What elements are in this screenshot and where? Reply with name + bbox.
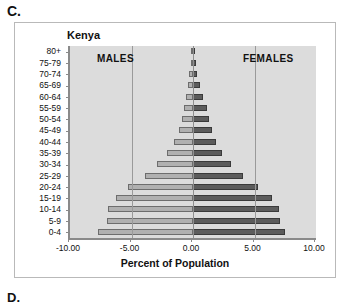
y-axis-label: 55-59 xyxy=(39,103,61,114)
y-axis-label: 50-54 xyxy=(39,114,61,125)
bar-male-35-39 xyxy=(167,150,193,156)
y-axis-label: 80+ xyxy=(47,46,61,57)
zero-line xyxy=(193,46,194,238)
y-axis-tick xyxy=(66,131,69,132)
bar-female-45-49 xyxy=(193,127,212,133)
x-axis-tick xyxy=(191,238,192,242)
x-axis-tick-label: 0.00 xyxy=(183,243,200,253)
bar-female-5-9 xyxy=(193,218,280,224)
y-axis-tick xyxy=(66,119,69,120)
bar-male-50-54 xyxy=(182,116,193,122)
bar-female-25-29 xyxy=(193,173,243,179)
y-axis-tick xyxy=(66,232,69,233)
y-axis-tick xyxy=(66,153,69,154)
gridline--10 xyxy=(70,46,71,238)
bar-male-30-34 xyxy=(157,161,193,167)
gridline--5 xyxy=(132,46,133,238)
bar-male-10-14 xyxy=(108,206,193,212)
x-axis-tick xyxy=(314,238,315,242)
y-axis-label: 5-9 xyxy=(49,216,61,227)
bar-male-15-19 xyxy=(116,195,193,201)
y-axis-tick xyxy=(66,108,69,109)
plot-area xyxy=(68,46,316,240)
x-axis-tick xyxy=(253,238,254,242)
bar-female-20-24 xyxy=(193,184,258,190)
y-axis-tick xyxy=(66,97,69,98)
y-axis-label: 45-49 xyxy=(39,125,61,136)
males-label: MALES xyxy=(97,53,134,64)
bar-female-0-4 xyxy=(193,229,285,235)
y-axis-label: 65-69 xyxy=(39,80,61,91)
x-axis-tick-label: -10.00 xyxy=(56,243,80,253)
y-axis-label: 25-29 xyxy=(39,171,61,182)
bar-male-40-44 xyxy=(174,139,193,145)
bar-male-60-64 xyxy=(186,94,193,100)
y-axis-label: 60-64 xyxy=(39,92,61,103)
plot-inner xyxy=(70,46,316,238)
bar-male-25-29 xyxy=(145,173,193,179)
females-label: FEMALES xyxy=(243,53,294,64)
bar-female-55-59 xyxy=(193,105,207,111)
y-axis-label: 40-44 xyxy=(39,137,61,148)
bar-female-60-64 xyxy=(193,94,203,100)
y-axis-label: 15-19 xyxy=(39,193,61,204)
panel-letter: C. xyxy=(7,3,21,19)
bar-male-45-49 xyxy=(179,127,193,133)
bar-female-15-19 xyxy=(193,195,272,201)
gridline-5 xyxy=(255,46,256,238)
y-axis-tick xyxy=(66,86,69,87)
y-axis-label: 35-39 xyxy=(39,148,61,159)
next-panel-letter: D. xyxy=(7,290,20,303)
y-axis-label: 20-24 xyxy=(39,182,61,193)
x-axis-tick-label: -5.00 xyxy=(120,243,139,253)
y-axis-label: 10-14 xyxy=(39,204,61,215)
y-axis-tick xyxy=(66,52,69,53)
bar-male-0-4 xyxy=(98,229,193,235)
y-axis-label: 70-74 xyxy=(39,69,61,80)
y-axis-tick xyxy=(66,210,69,211)
x-axis-tick-label: 5.00 xyxy=(244,243,261,253)
x-axis-tick xyxy=(68,238,69,242)
chart-title: Kenya xyxy=(67,29,100,41)
y-axis-tick xyxy=(66,74,69,75)
y-axis-tick xyxy=(66,165,69,166)
bar-female-50-54 xyxy=(193,116,209,122)
bar-female-65-69 xyxy=(193,82,200,88)
y-axis-tick xyxy=(66,198,69,199)
x-axis-tick xyxy=(130,238,131,242)
bar-male-20-24 xyxy=(128,184,193,190)
x-axis-tick-label: 10.00 xyxy=(303,243,324,253)
y-axis-label: 0-4 xyxy=(49,227,61,238)
bar-male-5-9 xyxy=(107,218,193,224)
bar-female-30-34 xyxy=(193,161,231,167)
y-axis-label: 75-79 xyxy=(39,58,61,69)
y-axis-label: 30-34 xyxy=(39,159,61,170)
bar-female-35-39 xyxy=(193,150,222,156)
figure-panel: C. Kenya 80+75-7970-7465-6960-6455-5950-… xyxy=(0,0,347,303)
y-axis-tick xyxy=(66,187,69,188)
bar-female-40-44 xyxy=(193,139,216,145)
chart-card: Kenya 80+75-7970-7465-6960-6455-5950-544… xyxy=(14,22,336,278)
x-axis-title: Percent of Population xyxy=(15,257,335,269)
x-axis-labels: -10.00-5.000.005.0010.00 xyxy=(15,243,337,257)
bar-male-55-59 xyxy=(184,105,193,111)
y-axis-tick xyxy=(66,176,69,177)
y-axis-tick xyxy=(66,221,69,222)
bar-female-10-14 xyxy=(193,206,279,212)
y-axis-tick xyxy=(66,142,69,143)
y-axis-labels: 80+75-7970-7465-6960-6455-5950-5445-4940… xyxy=(15,46,65,238)
y-axis-tick xyxy=(66,63,69,64)
gridline-10 xyxy=(316,46,317,238)
